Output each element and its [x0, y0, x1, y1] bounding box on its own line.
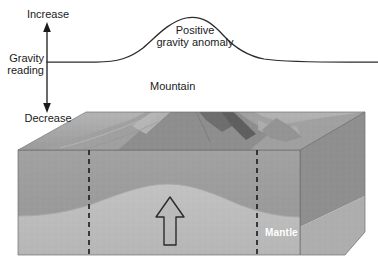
gravity-axis-arrow — [43, 22, 51, 113]
block-front-face — [18, 150, 300, 255]
annotation-mantle: Mantle — [265, 227, 315, 239]
gravity-reading-line-2: reading — [0, 64, 44, 76]
anomaly-line-2: gravity anomaly — [147, 36, 243, 48]
annotation-mountain: Mountain — [150, 80, 220, 92]
axis-label-gravity-reading: Gravity reading — [0, 52, 44, 76]
anomaly-line-1: Positive — [147, 24, 243, 36]
axis-label-decrease: Decrease — [18, 112, 78, 124]
annotation-positive-gravity-anomaly: Positive gravity anomaly — [147, 24, 243, 48]
gravity-anomaly-figure: Increase Decrease Gravity reading Positi… — [0, 0, 378, 270]
gravity-reading-line-1: Gravity — [0, 52, 44, 64]
axis-label-increase: Increase — [18, 8, 78, 20]
